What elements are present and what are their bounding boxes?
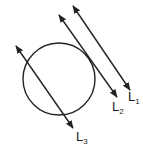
label-l1: L1 bbox=[128, 90, 140, 106]
label-l2-subscript: 2 bbox=[119, 107, 123, 116]
label-l3-subscript: 3 bbox=[83, 137, 87, 145]
circle bbox=[23, 43, 95, 115]
label-l2: L2 bbox=[112, 100, 124, 116]
geometry-figure: L1 L2 L3 bbox=[0, 0, 143, 145]
label-l1-subscript: 1 bbox=[135, 97, 139, 106]
label-l3: L3 bbox=[76, 130, 88, 145]
circle-and-lines-diagram bbox=[0, 0, 143, 145]
